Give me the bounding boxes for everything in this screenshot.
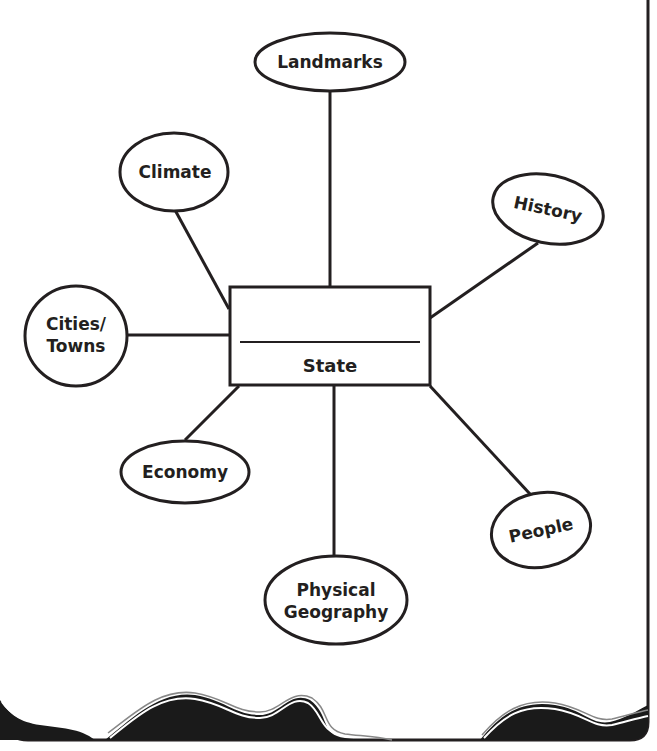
- node-cities-towns: Cities/ Towns: [25, 286, 127, 386]
- node-people: People: [484, 483, 597, 576]
- node-history: History: [486, 164, 610, 254]
- node-landmarks: Landmarks: [255, 33, 405, 91]
- center-box-state: State: [230, 287, 430, 385]
- node-cities-towns-label-line2: Towns: [47, 336, 106, 356]
- connector-climate: [175, 210, 229, 309]
- node-landmarks-label: Landmarks: [277, 52, 383, 72]
- concept-web-page: State Landmarks Climate History Cities/ …: [0, 0, 657, 751]
- connector-history: [430, 243, 538, 318]
- bottom-wave-decoration: [0, 692, 648, 740]
- node-physical-geography-label-line2: Geography: [284, 602, 389, 622]
- connector-economy: [185, 386, 239, 440]
- node-physical-geography: Physical Geography: [265, 556, 407, 644]
- node-physical-geography-label-line1: Physical: [297, 580, 376, 600]
- node-economy: Economy: [121, 441, 249, 503]
- connector-people: [430, 386, 530, 494]
- node-cities-towns-label-line1: Cities/: [46, 314, 107, 334]
- center-label: State: [303, 355, 358, 376]
- node-climate: Climate: [120, 133, 228, 211]
- concept-web-diagram: State Landmarks Climate History Cities/ …: [0, 0, 657, 751]
- node-climate-label: Climate: [139, 162, 212, 182]
- node-economy-label: Economy: [142, 462, 228, 482]
